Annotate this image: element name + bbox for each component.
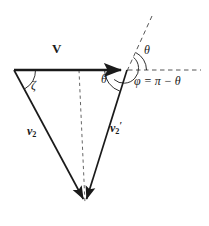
label-vector-v2: v2 [27,125,36,140]
label-vector-v2-prime: v2′ [110,121,122,136]
vector-diagram-canvas [0,0,209,226]
label-vector-v2-prime-mark: ′ [119,120,122,131]
dashed-vertical-line [79,70,85,203]
label-angle-zeta: ζ [31,79,36,91]
label-vector-V: V [52,42,61,55]
label-angle-theta-inner: θ [101,73,107,85]
label-phi-relation: φ = π − θ [134,75,181,87]
label-angle-theta-upper: θ [144,44,150,56]
vector-diagram-figure: V ζ v2 v2′ θ θ φ = π − θ [0,0,209,226]
vector-v2-line [14,70,83,199]
label-vector-v2-subscript: 2 [32,130,36,139]
